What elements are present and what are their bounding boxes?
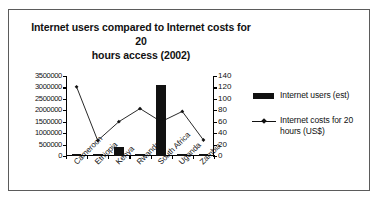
chart-title: Internet users compared to Internet cost… <box>31 20 251 62</box>
y-left-tick-label: 3500000 <box>35 72 62 80</box>
y-axis-right-tick-labels: 020406080100120140 <box>218 76 244 156</box>
cost-data-point-marker <box>75 85 79 89</box>
x-axis-category-labels: CameroonEthiopiaKenyaRwandaSouth AfricaU… <box>66 158 218 201</box>
legend-item-internet-costs: Internet costs for 20 hours (US$) <box>252 115 374 137</box>
legend-label-internet-users: Internet users (est) <box>280 90 349 101</box>
y-left-tick-label: 1500000 <box>35 118 62 126</box>
y-right-tick-label: 0 <box>218 152 222 160</box>
y-right-tick-label: 140 <box>218 72 231 80</box>
chart-title-line-2: hours access (2002) <box>31 48 251 62</box>
chart-frame: Internet users compared to Internet cost… <box>8 9 370 191</box>
y-right-tick-label: 120 <box>218 83 231 91</box>
y-left-tick-label: 2500000 <box>35 95 62 103</box>
chart-title-line-1: Internet users compared to Internet cost… <box>31 20 251 48</box>
y-axis-left-tick-labels: 0500000100000015000002000000250000030000… <box>12 76 62 156</box>
y-left-tick-label: 1000000 <box>35 129 62 137</box>
chart-legend: Internet users (est) Internet costs for … <box>252 90 374 151</box>
bar-swatch-icon <box>252 91 276 101</box>
y-left-tick-label: 3000000 <box>35 84 62 92</box>
y-left-tick-label: 500000 <box>39 141 62 149</box>
legend-label-internet-costs: Internet costs for 20 hours (US$) <box>280 115 374 137</box>
y-right-tick-label: 100 <box>218 95 231 103</box>
y-right-tick-label: 80 <box>218 106 227 114</box>
y-left-tick-label: 0 <box>58 152 62 160</box>
line-diamond-swatch-icon <box>252 116 276 126</box>
y-right-tick-label: 40 <box>218 129 227 137</box>
y-right-tick-label: 60 <box>218 118 227 126</box>
y-left-tick-label: 2000000 <box>35 107 62 115</box>
legend-item-internet-users: Internet users (est) <box>252 90 374 101</box>
